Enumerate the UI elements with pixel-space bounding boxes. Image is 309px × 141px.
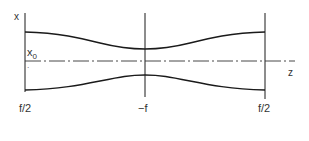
horizontal-axis-label: z bbox=[288, 67, 293, 78]
waist-subscript: 0 bbox=[33, 52, 38, 61]
beam-diagram: x x0 · z f/2 −f f/2 bbox=[0, 0, 309, 141]
waist-label: x0 bbox=[27, 46, 38, 61]
vertical-axis-label: x bbox=[14, 11, 19, 22]
left-plane-label: f/2 bbox=[19, 102, 31, 114]
right-plane-label: f/2 bbox=[258, 102, 270, 114]
center-plane-label: −f bbox=[138, 102, 148, 114]
waist-dot: · bbox=[27, 64, 29, 71]
